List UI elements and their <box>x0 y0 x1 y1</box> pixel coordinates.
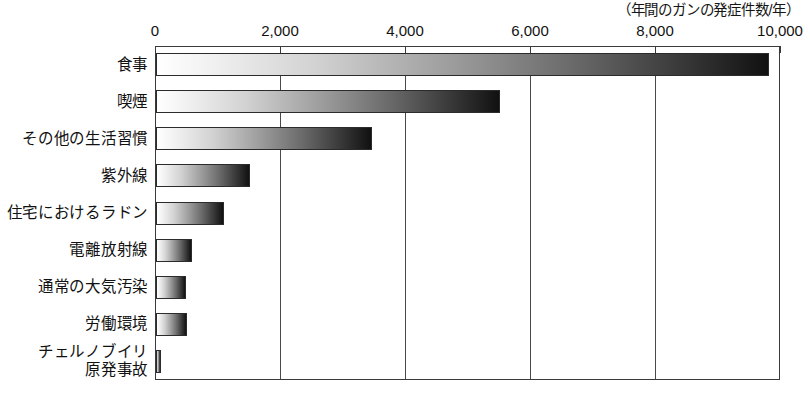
category-labels: 食事喫煙その他の生活習慣紫外線住宅におけるラドン電離放射線通常の大気汚染労働環境… <box>0 46 151 380</box>
x-tickmark <box>780 46 781 53</box>
category-label: 住宅におけるラドン <box>0 204 148 222</box>
x-tick-label: 0 <box>151 21 159 41</box>
bar <box>156 164 250 187</box>
x-tickmark <box>280 46 281 53</box>
bar-row <box>156 239 779 262</box>
unit-note: （年間のガンの発症件数/年） <box>617 2 800 18</box>
bar-row <box>156 90 779 113</box>
bar <box>156 53 769 76</box>
bar-row <box>156 127 779 150</box>
x-tick-label: 10,000 <box>757 21 803 41</box>
bar <box>156 90 500 113</box>
x-tickmark <box>405 46 406 53</box>
bar <box>156 202 224 225</box>
x-tickmark <box>530 46 531 53</box>
category-label: 労働環境 <box>0 315 148 333</box>
bar-row <box>156 313 779 336</box>
x-tick-label: 8,000 <box>636 21 674 41</box>
category-label: 紫外線 <box>0 167 148 185</box>
x-axis-tick-labels: 02,0004,0006,0008,00010,000 <box>0 21 810 41</box>
x-tickmark <box>655 46 656 53</box>
category-label: 喫煙 <box>0 93 148 111</box>
bar <box>156 239 192 262</box>
x-tick-label: 4,000 <box>386 21 424 41</box>
bar-row <box>156 276 779 299</box>
category-label: チェルノブイリ 原発事故 <box>0 343 148 379</box>
bar <box>156 350 161 373</box>
category-label: その他の生活習慣 <box>0 130 148 148</box>
bar-row <box>156 53 779 76</box>
bar-row <box>156 202 779 225</box>
bar <box>156 127 372 150</box>
x-tick-label: 2,000 <box>261 21 299 41</box>
bar <box>156 276 186 299</box>
bar-row <box>156 164 779 187</box>
cancer-incidence-bar-chart: （年間のガンの発症件数/年） 02,0004,0006,0008,00010,0… <box>0 0 810 395</box>
category-label: 通常の大気汚染 <box>0 278 148 296</box>
plot-area <box>155 46 780 380</box>
category-label: 食事 <box>0 56 148 74</box>
category-label: 電離放射線 <box>0 241 148 259</box>
x-tick-label: 6,000 <box>511 21 549 41</box>
bar <box>156 313 187 336</box>
x-tickmark <box>155 46 156 53</box>
bar-row <box>156 350 779 373</box>
